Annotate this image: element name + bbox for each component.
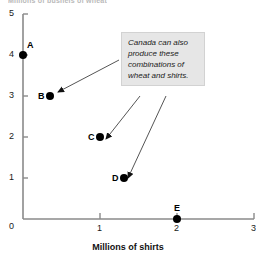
point-label-b: B	[38, 91, 45, 101]
point-label-c: C	[88, 132, 95, 142]
point-label-d: D	[112, 173, 119, 183]
annotation-callout: Canada can also produce these combinatio…	[121, 32, 205, 86]
data-point-d[interactable]	[120, 174, 128, 182]
leader-line-to-d	[128, 96, 166, 178]
y-tick-label-4: 4	[9, 49, 14, 59]
data-point-c[interactable]	[96, 133, 104, 141]
data-point-a[interactable]	[19, 51, 27, 59]
x-tick-label-1: 1	[97, 223, 102, 233]
data-point-e[interactable]	[173, 215, 181, 223]
chart-canvas: Millions of bushels of wheat 5 4	[0, 0, 256, 260]
x-tick-label-2: 2	[174, 223, 179, 233]
leader-line-to-b	[58, 60, 119, 92]
origin-label: 0	[9, 221, 14, 231]
point-label-a: A	[27, 40, 34, 50]
data-point-b[interactable]	[46, 92, 54, 100]
point-label-e: E	[174, 203, 180, 213]
x-axis-title: Millions of shirts	[0, 242, 256, 252]
y-tick-label-2: 2	[9, 131, 14, 141]
y-tick-label-3: 3	[9, 90, 14, 100]
leader-line-to-c	[106, 96, 140, 139]
y-tick-label-5: 5	[9, 8, 14, 18]
x-tick-label-3: 3	[251, 223, 256, 233]
y-tick-label-1: 1	[9, 172, 14, 182]
